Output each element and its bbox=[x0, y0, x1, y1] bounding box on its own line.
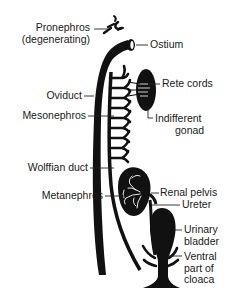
label-pronephros: Pronephros (degenerating) bbox=[4, 22, 90, 45]
label-urinary-bladder-line2: bladder bbox=[184, 236, 219, 248]
label-pronephros-line2: (degenerating) bbox=[4, 34, 90, 46]
diagram-canvas: Pronephros (degenerating) Ostium Rete co… bbox=[0, 0, 231, 296]
label-indifferent-gonad-line2: gonad bbox=[155, 125, 204, 137]
label-rete-cords: Rete cords bbox=[162, 78, 213, 90]
label-urinary-bladder-line1: Urinary bbox=[184, 224, 219, 236]
label-ventral-cloaca-line1: Ventral bbox=[184, 251, 217, 263]
label-ureter: Ureter bbox=[182, 199, 211, 211]
label-urinary-bladder: Urinary bladder bbox=[184, 224, 219, 247]
pronephros-fragments bbox=[104, 16, 123, 33]
label-wolffian-duct: Wolffian duct bbox=[4, 162, 88, 174]
label-ventral-cloaca-line3: cloaca bbox=[184, 274, 217, 286]
label-indifferent-gonad: Indifferent gonad bbox=[155, 113, 204, 136]
label-pronephros-line1: Pronephros bbox=[4, 22, 90, 34]
label-mesonephros: Mesonephros bbox=[4, 110, 86, 122]
bladder-cloaca-shape bbox=[143, 208, 180, 288]
label-renal-pelvis: Renal pelvis bbox=[160, 187, 217, 199]
label-indifferent-gonad-line1: Indifferent bbox=[155, 113, 204, 125]
label-ventral-cloaca: Ventral part of cloaca bbox=[184, 251, 217, 286]
label-ostium: Ostium bbox=[150, 39, 183, 51]
label-metanephros: Metanephros bbox=[20, 190, 103, 202]
label-oviduct: Oviduct bbox=[20, 90, 82, 102]
gonad-shape bbox=[128, 69, 156, 111]
mesonephros-tubules bbox=[110, 66, 130, 162]
